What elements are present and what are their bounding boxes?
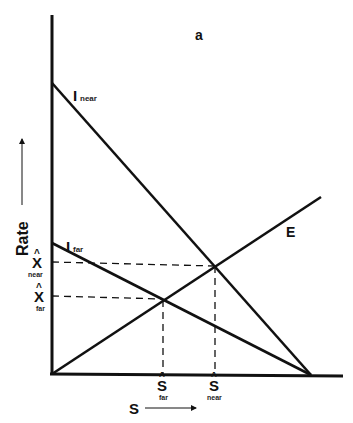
- svg-text:near: near: [28, 271, 43, 278]
- x-hat-far-label: X ^ far: [34, 282, 45, 312]
- i-near-label: I near: [73, 87, 97, 104]
- svg-text:far: far: [159, 394, 168, 401]
- i-far-line: [52, 243, 311, 375]
- svg-text:far: far: [73, 245, 83, 254]
- svg-text:near: near: [80, 94, 97, 103]
- svg-text:^: ^: [159, 371, 165, 382]
- svg-text:far: far: [36, 305, 45, 312]
- svg-text:^: ^: [36, 282, 42, 293]
- x-axis: [50, 374, 343, 376]
- e-label: E: [286, 224, 295, 240]
- x-hat-near-guide: [52, 262, 215, 266]
- svg-text:^: ^: [34, 248, 40, 259]
- x-hat-far-guide: [52, 296, 163, 299]
- i-far-label: I far: [66, 238, 83, 255]
- svg-text:near: near: [207, 394, 222, 401]
- y-axis-title: Rate: [14, 221, 31, 256]
- svg-text:I: I: [66, 238, 70, 255]
- rate-diagram: a I near I far E X ^ near X ^ far S ^ fa…: [0, 0, 353, 423]
- e-line: [52, 197, 321, 374]
- x-axis-title: S: [129, 400, 139, 417]
- panel-label: a: [195, 27, 203, 43]
- svg-text:I: I: [73, 87, 77, 104]
- svg-text:^: ^: [211, 371, 217, 382]
